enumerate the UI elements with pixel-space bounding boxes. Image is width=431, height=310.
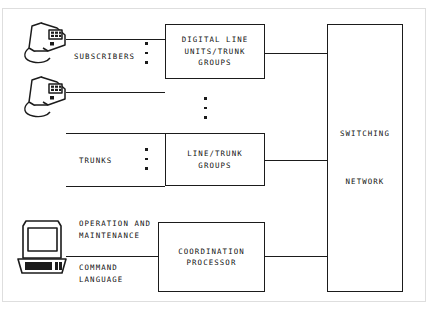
- connector-trunk-bottom: [66, 186, 165, 187]
- connector-trunk-top: [66, 133, 165, 134]
- ellipsis-dot: [145, 52, 148, 55]
- subscribers-ellipsis: [145, 42, 148, 64]
- connector-digital-line-to-switching: [265, 53, 327, 54]
- ellipsis-dot: [204, 97, 207, 100]
- ellipsis-dot: [145, 148, 148, 151]
- trunks-label: TRUNKS: [79, 155, 112, 167]
- connector-subscriber-bottom: [66, 92, 165, 93]
- digital-line-to-line-trunk-ellipsis: [204, 97, 207, 119]
- ellipsis-dot: [145, 167, 148, 170]
- coordination-processor-box: COORDINATION PROCESSOR: [158, 222, 265, 292]
- ellipsis-dot: [145, 42, 148, 45]
- ellipsis-dot: [204, 116, 207, 119]
- computer-terminal-icon: [14, 216, 72, 278]
- connector-line-trunk-to-switching: [265, 160, 327, 161]
- connector-coordination-to-switching: [265, 256, 327, 257]
- subscribers-label: SUBSCRIBERS: [74, 51, 135, 63]
- connector-subscriber-top: [66, 39, 165, 40]
- line-trunk-groups-box: LINE/TRUNK GROUPS: [165, 133, 265, 186]
- ellipsis-dot: [204, 107, 207, 110]
- operation-and-maintenance-label: OPERATION AND MAINTENANCE: [79, 218, 151, 241]
- connector-terminal-to-coordination: [66, 256, 158, 257]
- switching-network-label: SWITCHING NETWORK: [337, 122, 393, 194]
- telephone-icon: [8, 18, 70, 66]
- line-trunk-groups-label: LINE/TRUNK GROUPS: [166, 148, 264, 171]
- telephone-icon: [8, 72, 70, 120]
- ellipsis-dot: [145, 61, 148, 64]
- command-language-label: COMMAND LANGUAGE: [79, 262, 123, 285]
- switching-system-diagram: DIGITAL LINE UNITS/TRUNK GROUPS LINE/TRU…: [0, 0, 431, 310]
- coordination-processor-label: COORDINATION PROCESSOR: [175, 246, 248, 269]
- switching-network-box: SWITCHING NETWORK: [327, 24, 403, 292]
- ellipsis-dot: [145, 158, 148, 161]
- digital-line-units-label: DIGITAL LINE UNITS/TRUNK GROUPS: [179, 34, 252, 69]
- digital-line-units-trunk-groups-box: DIGITAL LINE UNITS/TRUNK GROUPS: [165, 24, 265, 79]
- trunks-ellipsis: [145, 148, 148, 170]
